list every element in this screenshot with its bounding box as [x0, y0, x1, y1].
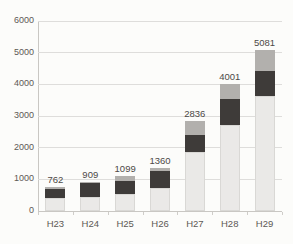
x-tick-label-H29: H29	[240, 218, 290, 229]
bar-total-label-H29: 5081	[240, 38, 290, 48]
x-axis-tick-1	[73, 212, 74, 215]
bar-H28-middle-segment	[220, 99, 240, 124]
bar-H26	[150, 21, 170, 211]
x-axis-tick-7	[282, 212, 283, 215]
x-axis-tick-6	[247, 212, 248, 215]
bar-H25-middle-segment	[115, 181, 135, 194]
stacked-bar-chart: 0100020003000400050006000762H23909H24109…	[0, 0, 293, 244]
bar-H24	[80, 21, 100, 211]
y-tick-label-2000: 2000	[4, 143, 34, 152]
bar-H24-bottom-segment	[80, 197, 100, 211]
y-tick-label-3000: 3000	[4, 111, 34, 120]
x-axis-tick-4	[177, 212, 178, 215]
bar-H29-bottom-segment	[255, 96, 275, 211]
bar-H27-middle-segment	[185, 135, 205, 152]
bar-H26-bottom-segment	[150, 188, 170, 211]
y-tick-label-5000: 5000	[4, 48, 34, 57]
bar-total-label-H28: 4001	[205, 72, 255, 82]
x-axis-tick-5	[212, 212, 213, 215]
bar-H25	[115, 21, 135, 211]
bar-H29-top-segment	[255, 50, 275, 70]
bar-H29-middle-segment	[255, 71, 275, 97]
bar-H27-bottom-segment	[185, 152, 205, 211]
bar-H24-middle-segment	[80, 183, 100, 196]
bar-total-label-H27: 2836	[170, 109, 220, 119]
bar-H26-middle-segment	[150, 171, 170, 188]
bar-H29	[255, 21, 275, 211]
x-axis-line	[38, 211, 282, 212]
bar-H28	[220, 21, 240, 211]
y-tick-label-0: 0	[4, 206, 34, 215]
bar-H23-top-segment	[45, 187, 65, 189]
bar-H28-bottom-segment	[220, 125, 240, 211]
x-axis-tick-2	[108, 212, 109, 215]
bar-H24-top-segment	[80, 182, 100, 183]
bar-total-label-H26: 1360	[135, 156, 185, 166]
y-tick-label-6000: 6000	[4, 16, 34, 25]
bar-H23-middle-segment	[45, 189, 65, 198]
bar-H27-top-segment	[185, 121, 205, 135]
x-axis-tick-0	[38, 212, 39, 215]
bar-H26-top-segment	[150, 168, 170, 171]
bar-H23-bottom-segment	[45, 198, 65, 211]
bar-H25-top-segment	[115, 176, 135, 181]
bar-H28-top-segment	[220, 84, 240, 99]
x-axis-tick-3	[143, 212, 144, 215]
y-tick-label-4000: 4000	[4, 79, 34, 88]
bar-H25-bottom-segment	[115, 194, 135, 211]
